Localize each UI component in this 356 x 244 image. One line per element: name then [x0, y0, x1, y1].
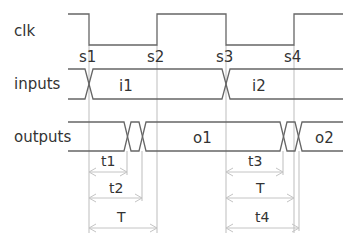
- signal-label-clk: clk: [14, 22, 35, 40]
- signal-label-outputs: outputs: [14, 128, 71, 146]
- clk-waveform: [68, 14, 343, 45]
- sample-label-s4: s4: [284, 48, 301, 66]
- sample-label-s3: s3: [216, 48, 233, 66]
- dimension-label-T-left: T: [116, 209, 126, 225]
- dimension-label-T-right: T: [255, 180, 265, 196]
- dimension-T-left: [89, 224, 157, 232]
- dimension-label-t2: t2: [109, 180, 123, 196]
- inputs-value-i1: i1: [119, 77, 133, 95]
- dimension-t3: [226, 168, 283, 176]
- outputs-value-o1: o1: [193, 129, 212, 147]
- inputs-value-i2: i2: [252, 77, 266, 95]
- outputs-value-o2: o2: [315, 129, 334, 147]
- dimension-t1: [89, 168, 127, 176]
- sample-label-s1: s1: [79, 48, 96, 66]
- timing-diagram: clk inputs outputs s1 s2 s3 s4 i1 i2 o1 …: [0, 0, 356, 244]
- dimension-label-t1: t1: [101, 153, 115, 169]
- dimension-label-t3: t3: [248, 153, 262, 169]
- inputs-waveform: [68, 69, 343, 99]
- signal-label-inputs: inputs: [14, 75, 61, 93]
- sample-label-s2: s2: [147, 48, 164, 66]
- dimension-label-t4: t4: [255, 209, 269, 225]
- dimension-t4: [226, 224, 299, 232]
